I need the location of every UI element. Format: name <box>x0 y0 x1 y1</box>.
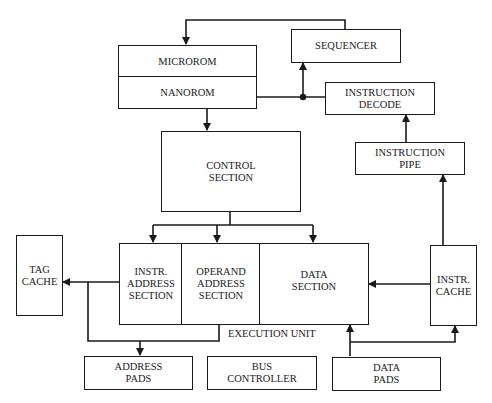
control-section-block: CONTROL SECTION <box>161 131 301 212</box>
instr-cache-block: INSTR. CACHE <box>430 245 477 326</box>
instruction-decode-label: INSTRUCTION DECODE <box>345 87 415 111</box>
sequencer-block: SEQUENCER <box>291 29 401 63</box>
bus-controller-block: BUS CONTROLLER <box>207 356 317 390</box>
arrow-data-pads-to-icache <box>350 326 455 342</box>
address-pads-block: ADDRESS PADS <box>84 356 193 390</box>
operand-address-section-block: OPERAND ADDRESS SECTION <box>181 243 261 325</box>
junction-dot <box>300 94 306 100</box>
nanorom-label: NANOROM <box>160 87 214 99</box>
data-pads-label: DATA PADS <box>373 362 400 386</box>
sequencer-label: SEQUENCER <box>315 40 377 52</box>
instr-cache-label: INSTR. CACHE <box>436 274 472 298</box>
data-section-block: DATA SECTION <box>259 243 369 325</box>
execution-unit-label: EXECUTION UNIT <box>228 328 316 339</box>
microrom-label: MICROROM <box>158 56 216 68</box>
microrom-block: MICROROM <box>118 45 257 78</box>
data-section-label: DATA SECTION <box>292 269 336 293</box>
tag-cache-label: TAG CACHE <box>22 264 58 288</box>
tag-cache-block: TAG CACHE <box>16 235 63 316</box>
instr-address-section-label: INSTR. ADDRESS SECTION <box>127 266 175 302</box>
control-section-label: CONTROL SECTION <box>206 160 256 184</box>
bus-controller-label: BUS CONTROLLER <box>227 361 296 385</box>
instr-address-section-block: INSTR. ADDRESS SECTION <box>119 243 183 325</box>
data-pads-block: DATA PADS <box>332 357 441 391</box>
instruction-pipe-label: INSTRUCTION PIPE <box>375 147 445 171</box>
nanorom-block: NANOROM <box>118 76 257 109</box>
address-pads-label: ADDRESS PADS <box>115 361 163 385</box>
instruction-pipe-block: INSTRUCTION PIPE <box>355 142 465 175</box>
instruction-decode-block: INSTRUCTION DECODE <box>325 82 435 115</box>
operand-address-section-label: OPERAND ADDRESS SECTION <box>196 266 246 302</box>
